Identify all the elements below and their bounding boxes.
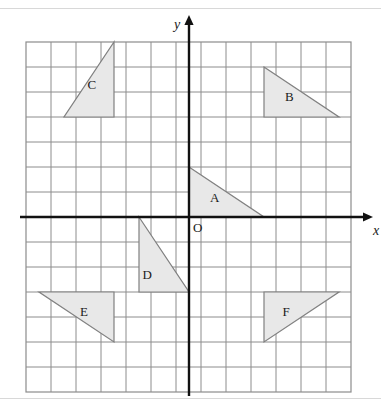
triangle-label-c: C bbox=[88, 78, 97, 91]
triangle-label-a: A bbox=[210, 191, 219, 204]
figure-page: x y O A B C D E F bbox=[0, 0, 381, 410]
triangle-label-d: D bbox=[143, 268, 152, 281]
coordinate-plot bbox=[0, 0, 381, 410]
origin-label: O bbox=[193, 221, 202, 234]
triangle-label-b: B bbox=[285, 90, 294, 103]
triangle-label-f: F bbox=[283, 305, 290, 318]
x-axis-label: x bbox=[373, 224, 379, 238]
y-axis-label: y bbox=[174, 18, 180, 32]
triangle-label-e: E bbox=[80, 305, 88, 318]
